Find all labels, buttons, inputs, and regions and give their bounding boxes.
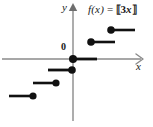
step-segment-pos2 [107,26,135,34]
step-segment-zero [69,55,97,63]
floor-bracket-close: ⟧ [132,3,136,15]
origin-label: 0 [61,42,66,52]
step-segment-neg2 [33,79,60,86]
closed-endpoint-dot [69,55,77,63]
step-segment-neg3 [9,92,37,99]
graph-canvas [0,0,153,127]
closed-endpoint-dot [52,79,59,86]
step-segment-pos1 [87,38,115,46]
function-equation-label: f(x) = ⟦3x⟧ [88,4,136,15]
closed-endpoint-dot [68,66,76,74]
y-axis-label: y [62,2,67,13]
closed-endpoint-dot [29,92,36,99]
closed-endpoint-dot [87,38,95,46]
closed-endpoint-dot [107,26,115,34]
x-axis-label: x [136,61,141,72]
y-axis-arrowhead [69,3,77,11]
function-name-text: f(x) [88,3,104,15]
step-function-figure: y x 0 f(x) = ⟦3x⟧ [0,0,153,127]
step-segment-neg1 [48,66,76,74]
